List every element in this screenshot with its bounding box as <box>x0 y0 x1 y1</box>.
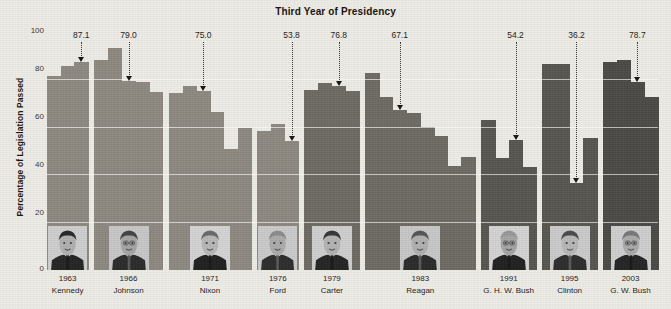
bar <box>448 166 462 270</box>
callout-arrow-icon <box>78 57 84 62</box>
callout-value: 87.1 <box>73 30 90 40</box>
y-tick-20: 20 <box>18 208 44 217</box>
callout-value: 36.2 <box>568 30 585 40</box>
callout-leader-line <box>81 42 82 56</box>
callout-value: 79.0 <box>120 30 137 40</box>
president-portrait <box>611 226 651 270</box>
bar-group <box>481 31 536 270</box>
bar-group <box>603 31 658 270</box>
bar <box>149 92 163 270</box>
callout-leader-line <box>576 42 577 177</box>
bar-group <box>304 31 359 270</box>
president-portrait <box>489 226 529 270</box>
gridline-20 <box>47 222 658 223</box>
plot-area <box>47 31 658 270</box>
bar <box>365 73 379 270</box>
x-axis-label: 2003G. W. Bush <box>585 273 671 296</box>
callout-arrow-icon <box>513 135 519 140</box>
bar <box>94 60 108 270</box>
chart-root: Third Year of Presidency Percentage of L… <box>0 0 671 309</box>
callout-value: 53.8 <box>283 30 300 40</box>
bar-group <box>365 31 475 270</box>
president-portrait <box>400 226 440 270</box>
callout-arrow-icon <box>634 77 640 82</box>
callout-arrow-icon <box>336 81 342 86</box>
callout-leader-line <box>339 42 340 80</box>
callout-value: 78.7 <box>629 30 646 40</box>
bar-group <box>47 31 88 270</box>
callout-leader-line <box>203 42 204 85</box>
bar <box>379 97 393 270</box>
callout-value: 54.2 <box>507 30 524 40</box>
gridline-80 <box>47 79 658 80</box>
x-axis-labels: 1963Kennedy1966Johnson1971Nixon1976Ford1… <box>0 273 671 309</box>
callout-leader-line <box>400 42 401 104</box>
y-tick-80: 80 <box>18 64 44 73</box>
callout-arrow-icon <box>126 76 132 81</box>
president-portrait <box>190 226 230 270</box>
y-tick-60: 60 <box>18 112 44 121</box>
president-portrait <box>258 226 297 270</box>
bar-group <box>169 31 251 270</box>
callout-value: 67.1 <box>391 30 408 40</box>
callout-arrow-icon <box>397 105 403 110</box>
president-portrait <box>109 226 149 270</box>
president-portrait <box>550 226 590 270</box>
callout-leader-line <box>516 42 517 134</box>
y-axis-ticks: 100 80 60 40 20 0 <box>0 0 44 309</box>
callout-leader-line <box>637 42 638 76</box>
y-tick-0: 0 <box>18 264 44 273</box>
callout-arrow-icon <box>289 136 295 141</box>
chart-title: Third Year of Presidency <box>0 6 671 17</box>
president-portrait <box>48 226 87 270</box>
callout-leader-line <box>292 42 293 135</box>
x-label-name: G. W. Bush <box>585 285 671 297</box>
callout-value: 76.8 <box>330 30 347 40</box>
y-tick-100: 100 <box>18 26 44 35</box>
callout-arrow-icon <box>573 178 579 183</box>
callout-leader-line <box>129 42 130 75</box>
gridline-40 <box>47 174 658 175</box>
bar <box>238 128 252 270</box>
bar <box>169 93 183 270</box>
callout-arrow-icon <box>200 86 206 91</box>
gridline-60 <box>47 127 658 128</box>
callout-value: 75.0 <box>195 30 212 40</box>
y-tick-40: 40 <box>18 160 44 169</box>
bar-group <box>542 31 597 270</box>
president-portrait <box>312 226 352 270</box>
x-label-year: 2003 <box>585 273 671 285</box>
